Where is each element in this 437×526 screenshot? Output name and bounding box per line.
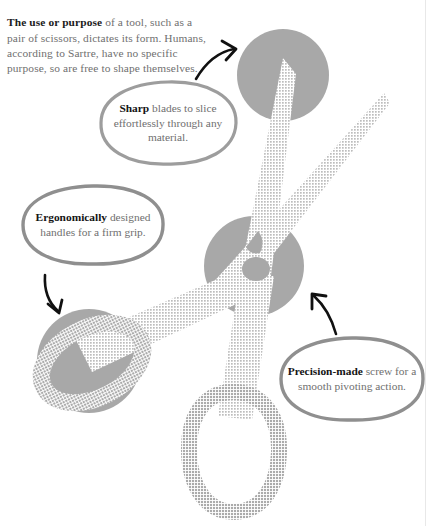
intro-paragraph: The use or purpose of a tool, such as a …: [7, 15, 212, 76]
callout-ergonomic-text: Ergonomically designed handles for a fir…: [18, 210, 168, 239]
illustration-page: The use or purpose of a tool, such as a …: [0, 0, 437, 526]
callout-sharp-lead: Sharp: [119, 102, 149, 114]
arrow-to-screw-icon: [312, 294, 336, 334]
intro-lead: The use or purpose: [7, 16, 102, 28]
callout-sharp-text: Sharp blades to slice effortlessly throu…: [96, 101, 240, 145]
callout-ergonomic: Ergonomically designed handles for a fir…: [18, 182, 168, 268]
callout-precision-text: Precision-made screw for a smooth pivoti…: [276, 364, 428, 393]
callout-ergonomic-lead: Ergonomically: [36, 211, 108, 223]
callout-sharp: Sharp blades to slice effortlessly throu…: [96, 78, 240, 168]
arrow-to-handle-icon: [45, 275, 62, 313]
callout-precision-lead: Precision-made: [288, 365, 363, 377]
callout-precision: Precision-made screw for a smooth pivoti…: [276, 334, 428, 424]
